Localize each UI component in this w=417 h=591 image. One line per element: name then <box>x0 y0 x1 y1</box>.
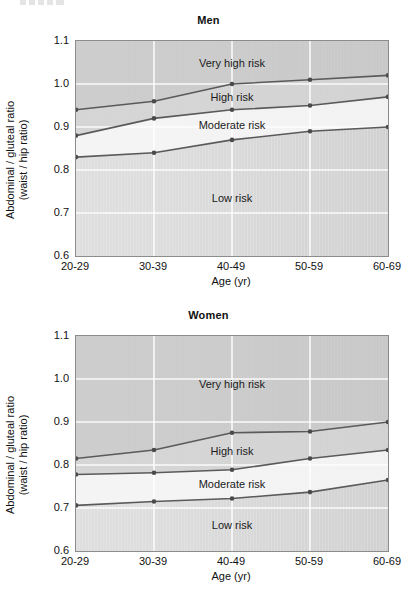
x-tick-label: 20-29 <box>61 260 89 272</box>
x-axis-title-women: Age (yr) <box>75 570 387 582</box>
x-tick-label: 60-69 <box>373 260 401 272</box>
y-tick-label: 0.8 <box>54 163 69 175</box>
y-tick-label: 1.0 <box>54 372 69 384</box>
y-tick-label: 1.1 <box>54 34 69 46</box>
y-axis-title-line2-women: (waist / hip ratio) <box>17 355 30 555</box>
panel-men: Men Very high risk High risk Moderate ri… <box>0 0 417 296</box>
y-tick-label: 0.9 <box>54 120 69 132</box>
x-tick-label: 40-49 <box>217 260 245 272</box>
y-tick-label: 0.9 <box>54 415 69 427</box>
y-axis-title-men: Abdominal / gluteal ratio (waist / hip r… <box>4 60 30 260</box>
figure-root: Men Very high risk High risk Moderate ri… <box>0 0 417 591</box>
x-tick-label: 30-39 <box>139 555 167 567</box>
y-tick-label: 0.8 <box>54 458 69 470</box>
x-axis-ticks-men: 20-2930-3940-4950-5960-69 <box>75 40 387 255</box>
x-tick-label: 60-69 <box>373 555 401 567</box>
x-tick-label: 40-49 <box>217 555 245 567</box>
x-tick-label: 30-39 <box>139 260 167 272</box>
y-axis-title-line1-women: Abdominal / gluteal ratio <box>4 396 16 514</box>
y-tick-label: 0.7 <box>54 501 69 513</box>
x-axis-ticks-women: 20-2930-3940-4950-5960-69 <box>75 335 387 550</box>
x-tick-label: 20-29 <box>61 555 89 567</box>
y-axis-title-line2-men: (waist / hip ratio) <box>17 60 30 260</box>
panel-title-women: Women <box>0 309 417 321</box>
y-axis-title-women: Abdominal / gluteal ratio (waist / hip r… <box>4 355 30 555</box>
y-tick-label: 0.7 <box>54 206 69 218</box>
x-tick-label: 50-59 <box>295 555 323 567</box>
panel-women: Women Very high risk High risk Moderate … <box>0 295 417 591</box>
panel-title-men: Men <box>0 14 417 26</box>
y-tick-label: 1.1 <box>54 329 69 341</box>
y-tick-label: 1.0 <box>54 77 69 89</box>
y-axis-title-line1-men: Abdominal / gluteal ratio <box>4 101 16 219</box>
x-tick-label: 50-59 <box>295 260 323 272</box>
x-axis-title-men: Age (yr) <box>75 275 387 287</box>
